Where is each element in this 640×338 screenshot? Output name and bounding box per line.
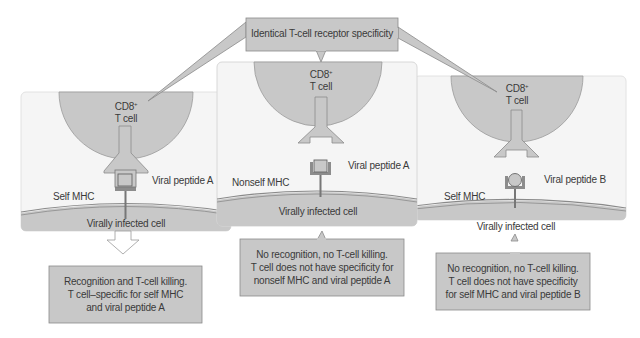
mhc-label-1: Self MHC (53, 191, 94, 202)
result-1-line-3: and viral peptide A (49, 301, 202, 314)
result-1-line-2: T cell–specific for self MHC (49, 288, 202, 301)
down-arrow (107, 231, 139, 254)
tcell-label-3-sup: + (525, 83, 528, 89)
result-2-line-1: No recognition, no T-cell killing. (240, 248, 404, 261)
peptide-label-2: Viral peptide A (348, 160, 409, 171)
tcell-label-3-name: CD8 (506, 83, 525, 94)
peptide-a-2 (314, 160, 327, 172)
tcell-label-3: CD8+ T cell (497, 80, 537, 107)
tcell-label-2-sup: + (329, 69, 332, 75)
cell-label-1: Virally infected cell (80, 218, 172, 229)
pointer-3 (511, 234, 518, 241)
result-3-line-2: T cell does not have specificity (436, 275, 590, 288)
peptide-a-1 (118, 174, 132, 186)
result-3-line-3: for self MHC and viral peptide B (436, 288, 590, 301)
tcell-label-2-name: CD8 (310, 69, 329, 80)
peptide-label-3: Viral peptide B (544, 174, 606, 185)
tcell-label-1-type: T cell (115, 113, 138, 124)
result-2-line-2: T cell does not have specificity for (240, 261, 404, 274)
tcell-label-2-type: T cell (310, 81, 333, 92)
result-text-1: Recognition and T-cell killing. T cell–s… (49, 275, 202, 314)
result-text-3: No recognition, no T-cell killing. T cel… (436, 262, 590, 301)
peptide-label-1: Viral peptide A (152, 175, 213, 186)
header-label: Identical T-cell receptor specificity (246, 28, 398, 39)
peptide-b (509, 174, 522, 187)
tcell-label-1-sup: + (134, 101, 137, 107)
result-text-2: No recognition, no T-cell killing. T cel… (240, 248, 404, 287)
tcell-label-1-name: CD8 (115, 101, 134, 112)
result-1-line-1: Recognition and T-cell killing. (49, 275, 202, 288)
mhc-label-2: Nonself MHC (232, 177, 289, 188)
cell-label-2: Virally infected cell (272, 206, 364, 217)
mhc-label-3: Self MHC (444, 191, 485, 202)
result-3-line-1: No recognition, no T-cell killing. (436, 262, 590, 275)
tcell-label-2: CD8+ T cell (301, 66, 341, 93)
result-2-line-3: nonself MHC and viral peptide A (240, 274, 404, 287)
tcell-label-1: CD8+ T cell (106, 98, 146, 125)
cell-label-3: Virally infected cell (470, 221, 562, 232)
tcell-label-3-type: T cell (506, 95, 529, 106)
